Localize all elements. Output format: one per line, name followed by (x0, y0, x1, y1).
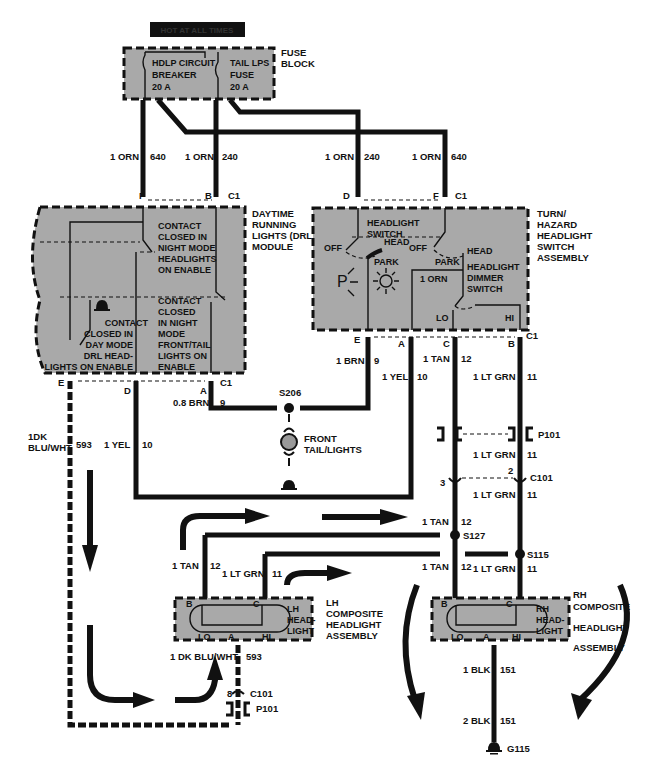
svg-text:HI: HI (505, 313, 514, 323)
svg-text:LO: LO (436, 313, 449, 323)
svg-text:1 LT GRN: 1 LT GRN (473, 371, 516, 382)
svg-text:S206: S206 (279, 387, 301, 398)
svg-text:DAYTIME: DAYTIME (252, 208, 294, 219)
svg-text:8: 8 (227, 688, 232, 699)
svg-text:MODULE: MODULE (252, 241, 293, 252)
svg-text:C: C (443, 338, 450, 349)
svg-text:LIGHTS ON: LIGHTS ON (158, 351, 207, 361)
svg-text:HEAD-: HEAD- (536, 615, 565, 625)
svg-text:1 LT GRN: 1 LT GRN (473, 449, 516, 460)
svg-text:C101: C101 (250, 688, 273, 699)
svg-text:HEAD: HEAD (384, 237, 410, 247)
ground-icon (486, 742, 502, 755)
svg-text:10: 10 (142, 439, 153, 450)
svg-text:1 LT GRN: 1 LT GRN (473, 563, 516, 574)
ground-icon (281, 480, 297, 490)
turn-hazard-headlight-switch-assembly: D F C1 HEADLIGHT SWITCH OFF HEAD OFF HEA… (313, 190, 593, 349)
svg-text:ASSEMBLY: ASSEMBLY (537, 252, 590, 263)
svg-text:11: 11 (527, 563, 538, 574)
svg-text:C1: C1 (220, 377, 233, 388)
svg-text:PARK: PARK (435, 257, 460, 267)
svg-text:12: 12 (461, 561, 472, 572)
svg-text:20 A: 20 A (230, 82, 249, 92)
svg-text:11: 11 (272, 568, 283, 579)
front-tail-lights-bulb-icon (281, 414, 297, 466)
svg-text:1DK: 1DK (28, 431, 47, 442)
svg-text:151: 151 (500, 664, 517, 675)
svg-text:9: 9 (374, 355, 379, 366)
svg-text:11: 11 (527, 371, 538, 382)
svg-text:HEADLIGHT: HEADLIGHT (573, 622, 629, 633)
svg-text:LH: LH (287, 604, 299, 614)
svg-text:HEADLIGHTS: HEADLIGHTS (158, 254, 217, 264)
svg-text:B: B (441, 599, 448, 609)
drl-module: F B C1 CONTACT CLOSED IN NIGHT MODE HEAD… (33, 190, 316, 396)
svg-text:0.8 BRN: 0.8 BRN (173, 397, 210, 408)
svg-text:1 YEL: 1 YEL (382, 371, 408, 382)
svg-text:640: 640 (451, 151, 467, 162)
svg-text:LO: LO (451, 632, 464, 642)
svg-text:3: 3 (440, 477, 445, 488)
svg-text:B: B (508, 338, 515, 349)
svg-text:B: B (186, 599, 193, 609)
lh-composite-headlight-assembly: B C LO A HI LH HEAD- LIGHT LH COMPOSITE … (175, 597, 383, 642)
svg-text:FUSE: FUSE (230, 70, 254, 80)
svg-text:SWITCH: SWITCH (467, 284, 503, 294)
svg-text:C1: C1 (526, 330, 539, 341)
svg-text:HDLP CIRCUIT: HDLP CIRCUIT (152, 58, 216, 68)
s115-splice (515, 549, 525, 559)
svg-text:COMPOSITE: COMPOSITE (326, 608, 383, 619)
svg-text:1 TAN: 1 TAN (172, 560, 199, 571)
svg-text:A: A (228, 632, 235, 642)
power-wires: 1 ORN 640 1 ORN 240 1 ORN 240 1 ORN 640 (110, 100, 467, 197)
svg-text:CLOSED IN: CLOSED IN (84, 329, 133, 339)
svg-text:12: 12 (461, 516, 472, 527)
svg-text:P101: P101 (256, 703, 279, 714)
svg-text:240: 240 (222, 151, 238, 162)
svg-text:LIGHT: LIGHT (287, 626, 314, 636)
svg-text:IN NIGHT: IN NIGHT (158, 318, 198, 328)
svg-text:1 BLK: 1 BLK (463, 664, 491, 675)
svg-text:2: 2 (508, 465, 513, 476)
svg-text:CONTACT: CONTACT (105, 318, 149, 328)
svg-text:A: A (483, 632, 490, 642)
s127-splice (450, 530, 460, 540)
svg-text:1 TAN: 1 TAN (422, 516, 449, 527)
svg-text:1 ORN: 1 ORN (185, 151, 214, 162)
mid-wires: 0.8 BRN 9 1DK BLU/WHT 593 1 YEL 10 1 BRN… (28, 337, 561, 742)
svg-text:OFF: OFF (409, 243, 427, 253)
svg-text:P: P (337, 273, 348, 290)
svg-text:HOT AT ALL TIMES: HOT AT ALL TIMES (161, 26, 235, 35)
svg-text:LIGHT: LIGHT (536, 626, 563, 636)
svg-text:TAIL LPS: TAIL LPS (230, 58, 269, 68)
svg-text:CLOSED: CLOSED (158, 307, 196, 317)
svg-text:F: F (139, 190, 145, 201)
svg-text:FRONT/TAIL: FRONT/TAIL (158, 340, 211, 350)
svg-text:HEAD-: HEAD- (287, 615, 316, 625)
svg-text:A: A (398, 338, 405, 349)
wiring-diagram: HOT AT ALL TIMES HDLP CIRCUIT BREAKER 20… (0, 0, 657, 777)
svg-text:RH: RH (573, 589, 587, 600)
svg-text:DAY MODE: DAY MODE (85, 340, 133, 350)
svg-text:FUSE: FUSE (281, 47, 306, 58)
svg-text:LIGHTS (DRL): LIGHTS (DRL) (252, 230, 315, 241)
svg-text:E: E (354, 334, 360, 345)
svg-text:RUNNING: RUNNING (252, 219, 296, 230)
svg-text:S127: S127 (463, 530, 485, 541)
svg-text:HEADLIGHT: HEADLIGHT (467, 262, 520, 272)
svg-text:9: 9 (220, 397, 225, 408)
svg-text:D: D (124, 385, 131, 396)
svg-text:1 DK BLU/WHT: 1 DK BLU/WHT (170, 651, 238, 662)
svg-text:1 ORN: 1 ORN (110, 151, 139, 162)
svg-text:1 LT GRN: 1 LT GRN (222, 568, 265, 579)
svg-text:240: 240 (364, 151, 380, 162)
svg-text:C: C (253, 599, 260, 609)
svg-text:151: 151 (500, 715, 517, 726)
svg-text:1 ORN: 1 ORN (325, 151, 354, 162)
svg-text:1 BRN: 1 BRN (336, 355, 365, 366)
svg-text:12: 12 (461, 353, 472, 364)
svg-text:HEADLIGHT: HEADLIGHT (537, 230, 593, 241)
svg-text:COMPOSITE: COMPOSITE (573, 601, 630, 612)
svg-text:FRONT: FRONT (304, 433, 337, 444)
svg-text:11: 11 (527, 489, 538, 500)
